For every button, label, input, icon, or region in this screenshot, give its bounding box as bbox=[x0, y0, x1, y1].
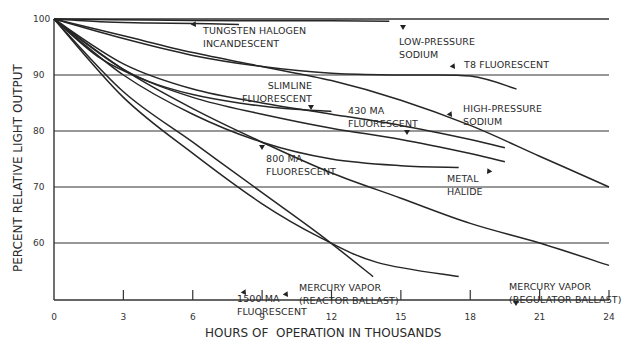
curve-mercury-vapor-reactor-ballast bbox=[54, 19, 459, 277]
y-tick-label: 70 bbox=[33, 182, 45, 192]
pointer-arrow-icon bbox=[259, 145, 265, 150]
svg-text:MERCURY VAPOR: MERCURY VAPOR bbox=[509, 281, 592, 292]
pointer-arrow-icon bbox=[485, 168, 493, 176]
label-low-pressure-sodium: LOW-PRESSURESODIUM bbox=[399, 36, 475, 60]
svg-text:FLUORESCENT: FLUORESCENT bbox=[242, 93, 312, 104]
pointer-arrow-icon bbox=[191, 21, 199, 29]
svg-text:430 MA: 430 MA bbox=[348, 105, 385, 116]
gridlines bbox=[54, 19, 609, 243]
label-metal-halide: METALHALIDE bbox=[447, 173, 483, 197]
x-tick-label: 18 bbox=[465, 312, 477, 322]
svg-text:TUNGSTEN HALOGEN: TUNGSTEN HALOGEN bbox=[202, 25, 306, 36]
svg-text:T8 FLUORESCENT: T8 FLUORESCENT bbox=[463, 59, 549, 70]
label-slimline-fluorescent: SLIMLINEFLUORESCENT bbox=[242, 80, 312, 104]
y-tick-label: 90 bbox=[33, 70, 45, 80]
label-mercury-vapor-reactor-ballast: MERCURY VAPOR(REACTOR BALLAST) bbox=[299, 282, 399, 306]
x-tick-label: 15 bbox=[395, 312, 406, 322]
x-tick-label: 12 bbox=[326, 312, 337, 322]
pointer-arrow-icon bbox=[404, 130, 410, 135]
lamp-lumen-depreciation-chart: 6070809010003691215182124 TUNGSTEN HALOG… bbox=[0, 0, 631, 354]
label-1500-ma-fluorescent: 1500 MAFLUORESCENT bbox=[237, 293, 307, 317]
label-430-ma-fluorescent: 430 MAFLUORESCENT bbox=[348, 105, 418, 129]
x-tick-label: 3 bbox=[121, 312, 127, 322]
label-mercury-vapor-regulator-ballast: MERCURY VAPOR(REGULATOR BALLAST) bbox=[509, 281, 622, 305]
svg-text:FLUORESCENT: FLUORESCENT bbox=[266, 166, 336, 177]
svg-text:(REACTOR BALLAST): (REACTOR BALLAST) bbox=[299, 295, 399, 306]
label-t8-fluorescent: T8 FLUORESCENT bbox=[463, 59, 549, 70]
data-curves bbox=[54, 19, 609, 277]
svg-text:SODIUM: SODIUM bbox=[463, 116, 502, 127]
svg-text:MERCURY VAPOR: MERCURY VAPOR bbox=[299, 282, 382, 293]
svg-text:INCANDESCENT: INCANDESCENT bbox=[203, 38, 279, 49]
y-axis-title: PERCENT RELATIVE LIGHT OUTPUT bbox=[11, 63, 25, 272]
svg-text:METAL: METAL bbox=[447, 173, 479, 184]
pointer-arrow-icon bbox=[308, 105, 314, 110]
x-tick-label: 0 bbox=[51, 312, 57, 322]
svg-text:LOW-PRESSURE: LOW-PRESSURE bbox=[399, 36, 475, 47]
svg-text:FLUORESCENT: FLUORESCENT bbox=[348, 118, 418, 129]
x-tick-label: 6 bbox=[190, 312, 196, 322]
svg-text:FLUORESCENT: FLUORESCENT bbox=[237, 306, 307, 317]
x-axis-title: HOURS OF OPERATION IN THOUSANDS bbox=[205, 326, 441, 340]
svg-text:HALIDE: HALIDE bbox=[447, 186, 483, 197]
svg-text:800 MA: 800 MA bbox=[266, 153, 303, 164]
y-tick-label: 80 bbox=[33, 126, 45, 136]
pointer-arrow-icon bbox=[450, 63, 458, 71]
y-tick-label: 100 bbox=[33, 14, 50, 24]
x-tick-label: 24 bbox=[603, 312, 615, 322]
pointer-arrow-icon bbox=[400, 25, 406, 30]
svg-text:SLIMLINE: SLIMLINE bbox=[268, 80, 312, 91]
svg-text:(REGULATOR BALLAST): (REGULATOR BALLAST) bbox=[509, 294, 622, 305]
svg-text:HIGH-PRESSURE: HIGH-PRESSURE bbox=[463, 103, 542, 114]
label-tungsten-halogen-incandescent: TUNGSTEN HALOGENINCANDESCENT bbox=[202, 25, 306, 49]
pointer-arrow-icon bbox=[283, 291, 291, 299]
label-800-ma-fluorescent: 800 MAFLUORESCENT bbox=[266, 153, 336, 177]
curve-mercury-vapor-regulator-ballast bbox=[54, 19, 609, 265]
svg-text:1500 MA: 1500 MA bbox=[237, 293, 280, 304]
y-tick-label: 60 bbox=[33, 238, 45, 248]
label-high-pressure-sodium: HIGH-PRESSURESODIUM bbox=[463, 103, 542, 127]
svg-text:SODIUM: SODIUM bbox=[399, 49, 438, 60]
x-tick-label: 21 bbox=[534, 312, 545, 322]
